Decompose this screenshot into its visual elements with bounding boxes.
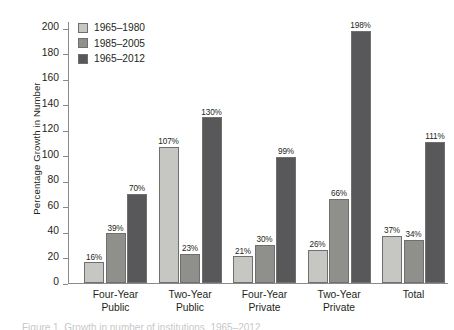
y-tick: 0 — [63, 284, 68, 285]
y-tick-label: 160 — [42, 72, 59, 83]
dark-gray-swatch — [78, 54, 88, 64]
bar-value-label: 99% — [278, 147, 294, 156]
y-tick: 80 — [63, 182, 68, 183]
x-axis-line — [68, 283, 448, 284]
y-tick: 60 — [63, 207, 68, 208]
bar: 130% — [202, 117, 222, 283]
bar: 198% — [351, 31, 371, 283]
bar-group: 26%66%198%Two-YearPrivate — [308, 22, 371, 283]
bar: 30% — [255, 245, 275, 283]
y-tick-label: 200 — [42, 21, 59, 32]
bar: 34% — [404, 240, 424, 283]
bar: 107% — [159, 147, 179, 283]
bar: 16% — [84, 262, 104, 282]
legend-item-label: 1965–2012 — [94, 53, 145, 64]
x-category-line-2: Private — [291, 301, 387, 315]
bar: 21% — [233, 256, 253, 283]
y-tick-label: 40 — [48, 225, 59, 236]
bar-value-label: 26% — [309, 240, 325, 249]
bar-chart-figure: Percentage Growth in Number 020406080100… — [0, 0, 454, 330]
bar-value-label: 21% — [235, 247, 251, 256]
bar: 70% — [127, 194, 147, 283]
y-tick: 160 — [63, 80, 68, 81]
bar-value-label: 111% — [425, 132, 444, 141]
medium-gray-swatch — [78, 38, 88, 48]
y-tick: 20 — [63, 258, 68, 259]
bar-value-label: 130% — [201, 108, 222, 117]
bar-group: 21%30%99%Four-YearPrivate — [233, 22, 296, 283]
legend-item-label: 1985–2005 — [94, 38, 145, 49]
bar: 111% — [425, 142, 445, 283]
y-axis-title: Percentage Growth in Number — [31, 39, 42, 259]
light-gray-swatch — [78, 23, 88, 33]
y-tick-label: 60 — [48, 200, 59, 211]
y-tick: 140 — [63, 105, 68, 106]
y-tick-label: 80 — [48, 174, 59, 185]
y-axis-line — [68, 22, 69, 284]
legend-item-label: 1965–1980 — [94, 22, 145, 33]
bar-group: 37%34%111%Total — [382, 22, 445, 283]
y-tick-label: 140 — [42, 98, 59, 109]
y-tick: 180 — [63, 54, 68, 55]
bar: 39% — [106, 233, 126, 283]
bar: 37% — [382, 236, 402, 283]
y-tick: 40 — [63, 233, 68, 234]
bar: 99% — [276, 157, 296, 283]
bar-value-label: 16% — [86, 253, 102, 262]
y-tick-label: 100 — [42, 149, 59, 160]
bar-value-label: 107% — [158, 137, 179, 146]
y-tick-label: 180 — [42, 47, 59, 58]
legend-item: 1965–2012 — [78, 51, 186, 67]
chart-legend: 1965–19801985–20051965–2012 — [78, 20, 186, 67]
bar-value-label: 66% — [331, 189, 347, 198]
y-tick: 100 — [63, 156, 68, 157]
bar-value-label: 198% — [350, 21, 371, 30]
x-category-label: Total — [366, 288, 454, 302]
bar: 26% — [308, 250, 328, 283]
legend-item: 1965–1980 — [78, 20, 186, 36]
figure-caption: Figure 1. Growth in number of institutio… — [22, 322, 442, 330]
bar: 23% — [180, 254, 200, 283]
y-tick: 200 — [63, 29, 68, 30]
y-tick-label: 20 — [48, 251, 59, 262]
y-tick-label: 0 — [53, 276, 59, 287]
legend-item: 1985–2005 — [78, 36, 186, 52]
bar-value-label: 70% — [129, 184, 145, 193]
bar: 66% — [329, 199, 349, 283]
bar-value-label: 23% — [182, 244, 198, 253]
bar-value-label: 37% — [384, 226, 400, 235]
y-tick: 120 — [63, 131, 68, 132]
bar-value-label: 39% — [107, 224, 123, 233]
y-tick-label: 120 — [42, 123, 59, 134]
x-category-line-1: Total — [366, 288, 454, 302]
bar-value-label: 34% — [405, 230, 421, 239]
bar-value-label: 30% — [256, 235, 272, 244]
